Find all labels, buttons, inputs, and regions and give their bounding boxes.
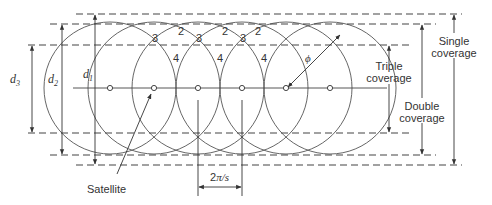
overlap-count-label: 4 bbox=[217, 52, 223, 64]
overlap-count-label: 4 bbox=[261, 52, 267, 64]
overlap-count-label: 3 bbox=[196, 32, 202, 44]
overlap-count-label: 2 bbox=[255, 25, 261, 37]
phi-radius-arrow bbox=[288, 35, 340, 87]
subpoint-marker bbox=[107, 85, 112, 90]
double-coverage-label-1: Double bbox=[405, 100, 440, 112]
overlap-count-label: 4 bbox=[173, 52, 179, 64]
subpoint-marker bbox=[151, 85, 156, 90]
triple-coverage-label-2: coverage bbox=[366, 72, 411, 84]
overlap-count-label: 3 bbox=[152, 32, 158, 44]
satellite-pointer-arrow bbox=[117, 94, 151, 174]
subpoint-marker bbox=[239, 85, 244, 90]
satellite-label: Satellite bbox=[87, 183, 126, 195]
single-coverage-label-2: coverage bbox=[431, 47, 476, 59]
overlap-count-label: 3 bbox=[240, 32, 246, 44]
triple-coverage-label-1: Triple bbox=[375, 60, 402, 72]
d3-label: d3 bbox=[10, 72, 20, 88]
overlap-count-label: 2 bbox=[178, 25, 184, 37]
subpoint-marker bbox=[195, 85, 200, 90]
double-coverage-label-2: coverage bbox=[399, 112, 444, 124]
overlap-count-label: 2 bbox=[222, 25, 228, 37]
spacing-label: 2π/s bbox=[210, 171, 229, 183]
phi-label: ϕ bbox=[305, 52, 311, 64]
subpoint-marker bbox=[283, 85, 288, 90]
diameter-dimensions bbox=[32, 15, 95, 164]
single-coverage-label-1: Single bbox=[439, 35, 470, 47]
d2-label: d2 bbox=[48, 72, 58, 88]
coverage-diagram: d3 d2 d1 323232444 ϕ Satellite 2π/s Trip… bbox=[0, 0, 492, 205]
subpoint-marker bbox=[327, 85, 332, 90]
d1-label: d1 bbox=[83, 67, 93, 83]
